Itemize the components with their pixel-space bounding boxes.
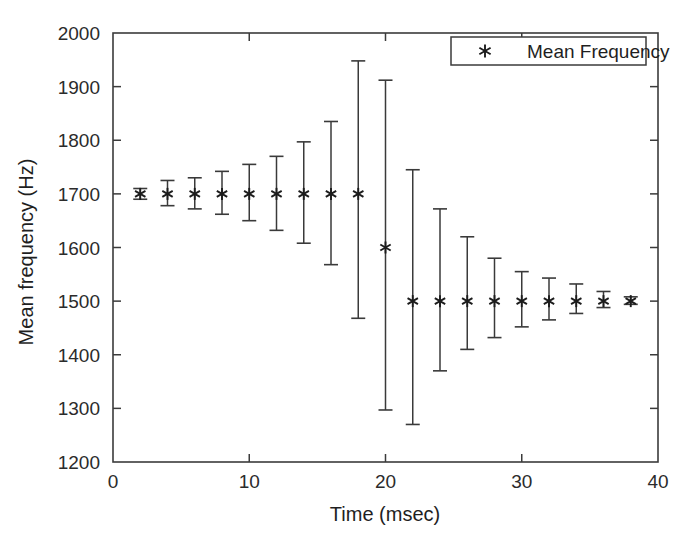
y-tick-label-1200: 1200 [58, 452, 100, 473]
x-tick-label-0: 0 [108, 471, 119, 492]
x-tick-label-40: 40 [647, 471, 668, 492]
y-tick-label-1500: 1500 [58, 291, 100, 312]
y-tick-label-1600: 1600 [58, 238, 100, 259]
legend-entry-label: Mean Frequency [527, 41, 670, 62]
data-point-marker [489, 295, 499, 307]
y-tick-label-1900: 1900 [58, 77, 100, 98]
data-point-marker [162, 188, 172, 200]
data-point-marker [326, 188, 336, 200]
y-tick-label-1700: 1700 [58, 184, 100, 205]
errorbar-chart: 120013001400150016001700180019002000 010… [0, 0, 693, 550]
y-tick-label-2000: 2000 [58, 23, 100, 44]
x-tick-label-20: 20 [375, 471, 396, 492]
x-tick-label-30: 30 [511, 471, 532, 492]
data-point-marker [517, 295, 527, 307]
x-tick-label-10: 10 [239, 471, 260, 492]
data-point-marker [435, 295, 445, 307]
data-point-marker [544, 295, 554, 307]
y-tick-label-1300: 1300 [58, 398, 100, 419]
error-bar [433, 209, 447, 371]
data-point-marker [190, 188, 200, 200]
x-axis-tick-labels: 010203040 [108, 471, 669, 492]
data-point-marker [571, 295, 581, 307]
data-point-marker [380, 242, 390, 254]
data-point-marker [135, 188, 145, 200]
data-point-marker [353, 188, 363, 200]
y-tick-label-1800: 1800 [58, 130, 100, 151]
error-bar [460, 237, 474, 350]
y-tick-label-1400: 1400 [58, 345, 100, 366]
x-axis-title: Time (msec) [330, 503, 440, 525]
data-point-marker [408, 295, 418, 307]
chart-figure: 120013001400150016001700180019002000 010… [0, 0, 693, 550]
y-axis-tick-labels: 120013001400150016001700180019002000 [58, 23, 100, 473]
data-point-marker [462, 295, 472, 307]
data-point-marker [217, 188, 227, 200]
data-point-marker [299, 188, 309, 200]
data-point-marker [244, 188, 254, 200]
chart-legend[interactable]: Mean Frequency [451, 37, 670, 65]
data-point-marker [598, 295, 608, 307]
y-axis-title: Mean frequency (Hz) [15, 159, 37, 346]
data-point-marker [271, 188, 281, 200]
